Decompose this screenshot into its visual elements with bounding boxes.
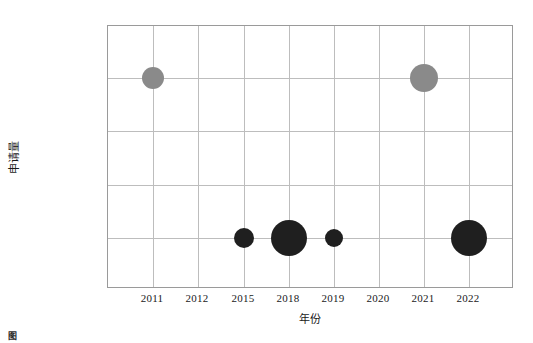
figure-caption: 图 [8,331,528,343]
bubble-chart-figure: 2011 2012 2015 2018 2019 2020 2021 2022 … [0,0,533,343]
x-axis-title: 年份 [299,310,321,326]
y-tick-group: 荧光检测技术 拉曼检测技术 红外检测技术 比色检测技术 [0,0,533,343]
y-axis-title: 申请量 [5,141,21,174]
figure-caption-label: 图 [8,331,17,341]
